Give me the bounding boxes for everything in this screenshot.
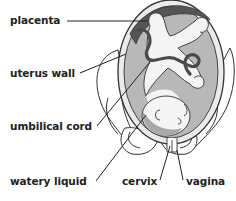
fetus-in-uterus-diagram [0,0,236,201]
leader-line-cervix [160,146,170,180]
label-umbilical-cord: umbilical cord [10,120,92,132]
label-watery-liquid: watery liquid [10,175,87,187]
label-placenta: placenta [10,14,60,26]
label-cervix: cervix [122,175,157,187]
label-vagina: vagina [186,175,225,187]
label-uterus-wall: uterus wall [10,67,75,79]
